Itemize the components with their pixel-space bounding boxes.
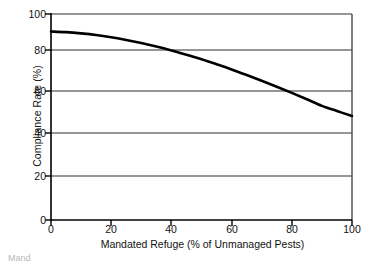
- x-tick-label: 60: [212, 224, 252, 235]
- y-tick-label: 60: [16, 86, 46, 96]
- y-tick-label: 40: [16, 128, 46, 138]
- cropped-caption-text: Mand: [8, 254, 348, 263]
- gridlines: [51, 14, 352, 176]
- x-tick-label: 20: [91, 224, 131, 235]
- y-tick-label: 100: [16, 9, 46, 19]
- x-tick-label: 40: [151, 224, 191, 235]
- x-tick-label-group: 0 20 40 60 80 100: [0, 224, 371, 238]
- y-tick-label: 20: [16, 171, 46, 181]
- x-tick-label: 0: [31, 224, 71, 235]
- x-axis-title: Mandated Refuge (% of Unmanaged Pests): [0, 238, 371, 250]
- x-tick-label: 100: [332, 224, 371, 235]
- y-tick-label: 80: [16, 45, 46, 55]
- data-series-line: [51, 32, 352, 116]
- chart-figure: Compliance Rate (%) 100 80 60 40 20 0: [0, 0, 371, 264]
- x-tick-label: 80: [272, 224, 312, 235]
